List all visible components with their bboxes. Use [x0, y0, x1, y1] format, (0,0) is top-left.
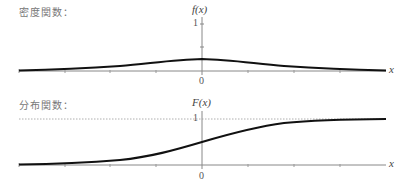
chart-canvas: [0, 0, 410, 192]
density-axes: [19, 17, 386, 75]
